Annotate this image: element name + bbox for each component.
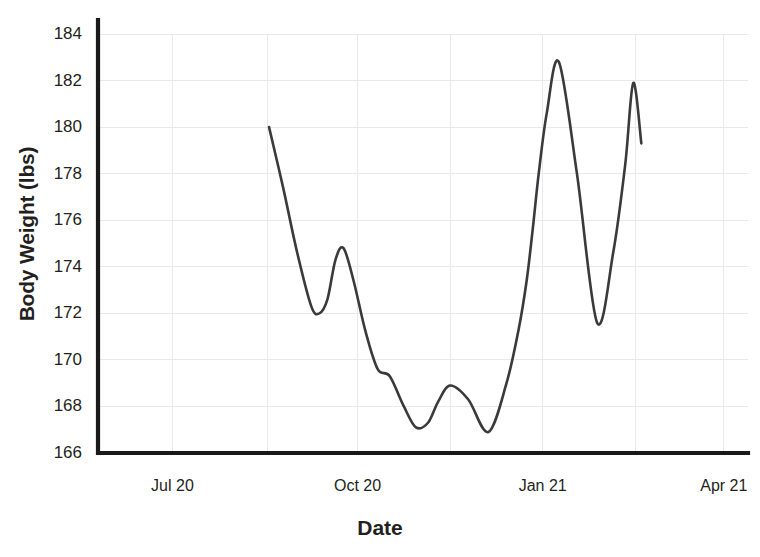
gridlines xyxy=(98,34,748,453)
axis-lines xyxy=(98,20,748,453)
body-weight-line-chart: Body Weight (lbs) Date 16616817017217417… xyxy=(0,0,760,557)
plot-area xyxy=(0,0,760,557)
body-weight-series-line xyxy=(269,60,641,432)
